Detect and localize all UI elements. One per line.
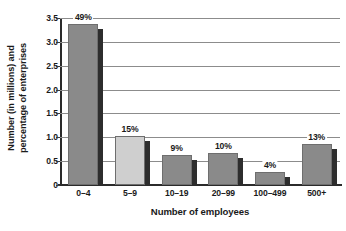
bar [255,172,285,185]
x-axis-tick-label: 0–4 [76,188,90,198]
bar-shadow [192,160,197,185]
bar-data-label: 15% [120,124,140,134]
bar-shadow [285,177,290,185]
y-axis-tick-mark [56,185,60,186]
y-axis-tick-mark [56,66,60,67]
bar [68,24,98,185]
y-axis-tick-label: 2.5 [36,61,58,71]
bar-data-label: 49% [73,12,93,22]
bar [302,144,332,185]
y-axis-tick-label: 2.0 [36,85,58,95]
y-axis-tick-mark [56,90,60,91]
bar-group: 15% [115,18,145,185]
bar-group: 4% [255,18,285,185]
y-axis-tick-label: 3.5 [36,13,58,23]
bar-shadow [238,158,243,185]
x-axis-tick-label: 100–499 [254,188,287,198]
y-axis-title-line-2: percentage of enterprises [17,43,29,153]
bar [162,155,192,185]
gridline [60,18,340,19]
bar-data-label: 10% [213,141,233,151]
bar-group: 13% [302,18,332,185]
x-axis-tick-label: 500+ [307,188,326,198]
bar-group: 10% [208,18,238,185]
bar-data-label: 4% [262,160,277,170]
x-axis-tick-label: 10–19 [165,188,188,198]
y-axis-tick-label: 0 [36,180,58,190]
bar-chart-figure: Number (in millions) and percentage of e… [0,0,346,231]
bar-group: 9% [162,18,192,185]
bar-data-label: 13% [307,132,327,142]
y-axis-tick-mark [56,161,60,162]
y-axis-tick-mark [56,42,60,43]
plot-area: 49%15%9%10%4%13% [60,18,340,185]
bar-shadow [145,141,150,185]
bar-data-label: 9% [169,143,184,153]
bar-shadow [98,29,103,185]
x-axis-tick-label: 5–9 [123,188,137,198]
y-axis-tick-mark [56,18,60,19]
y-axis-title-line-1: Number (in millions) and [6,43,18,153]
y-axis-tick-label: 1.0 [36,132,58,142]
y-axis-tick-label: 1.5 [36,108,58,118]
bar-shadow [332,149,337,185]
y-axis-tick-mark [56,113,60,114]
x-axis-title: Number of employees [60,206,340,217]
y-axis-tick-mark [56,137,60,138]
y-axis-tick-labels: 00.51.01.52.02.53.03.5 [34,0,58,195]
y-axis-tick-label: 0.5 [36,156,58,166]
x-axis-tick-label: 20–99 [212,188,235,198]
bar-group: 49% [68,18,98,185]
x-axis-tick-labels: 0–45–910–1920–99100–499500+ [60,188,340,204]
bar [208,153,238,185]
y-axis-tick-label: 3.0 [36,37,58,47]
bar [115,136,145,185]
y-axis-title: Number (in millions) and percentage of e… [0,0,34,195]
